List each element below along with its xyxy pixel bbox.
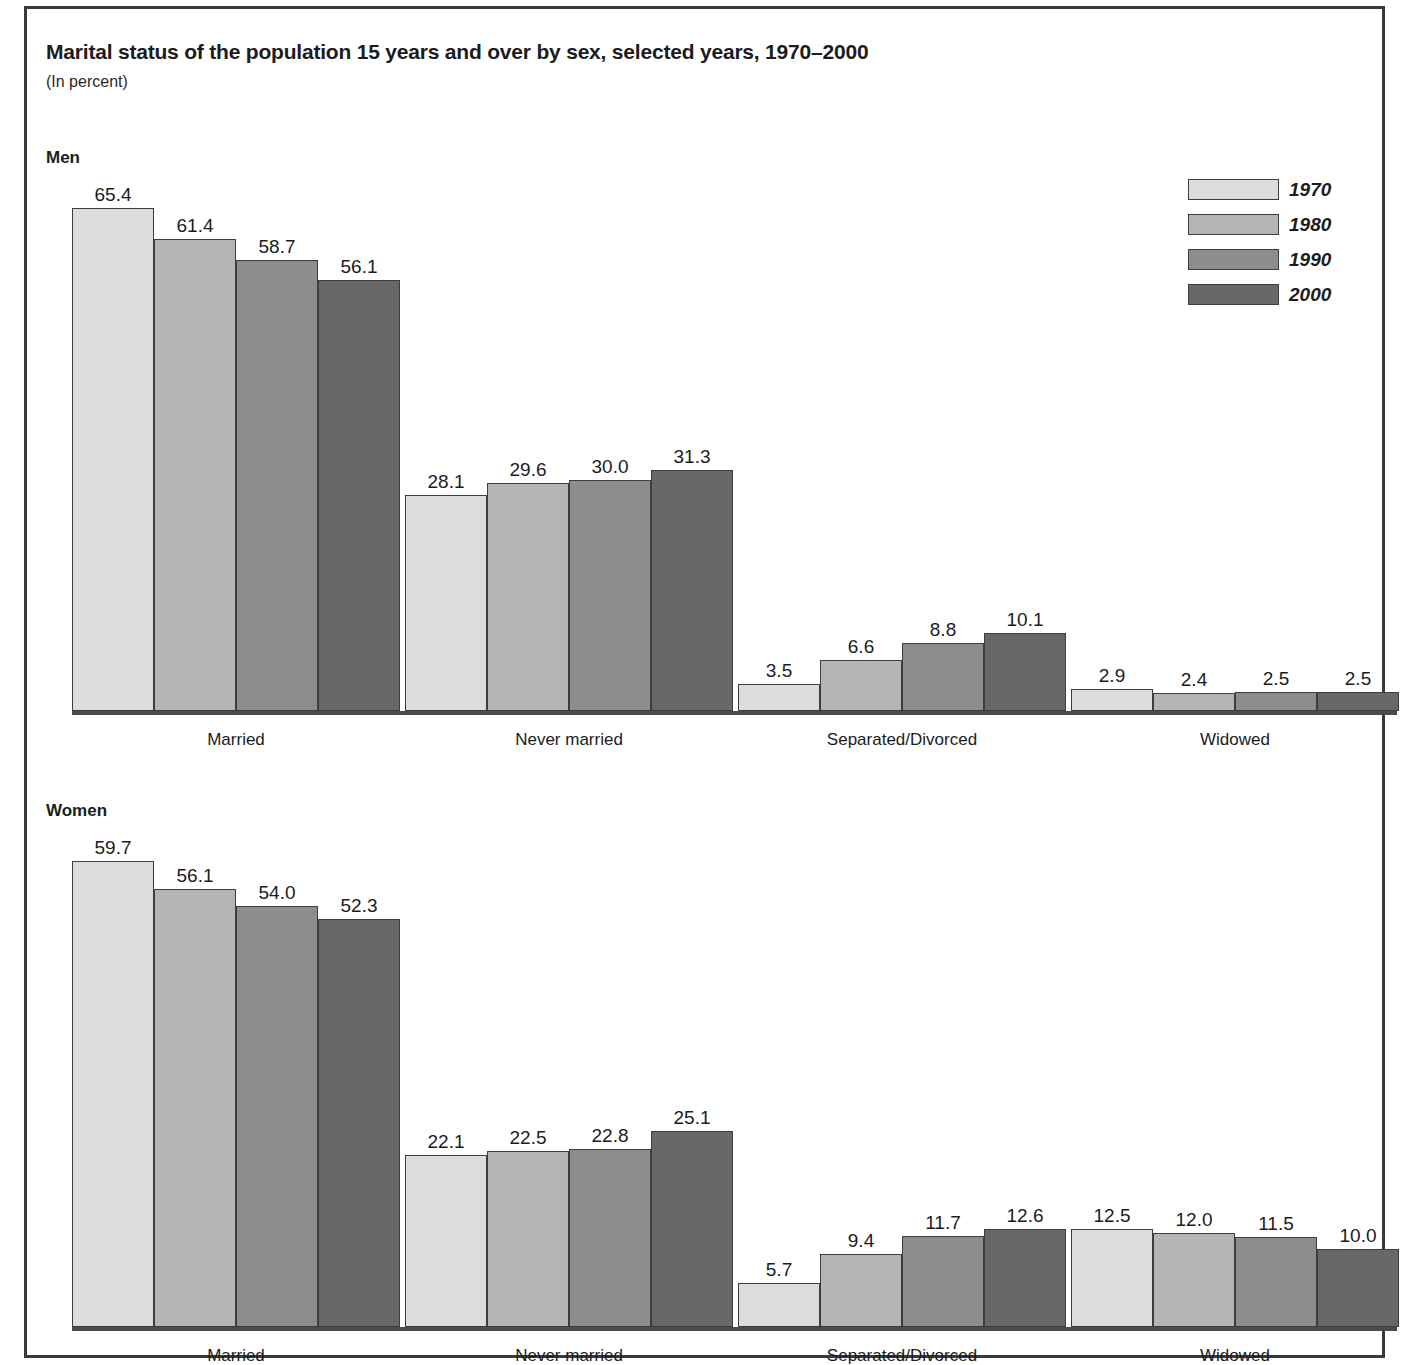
bar: 22.8	[569, 1149, 651, 1327]
bar: 22.5	[487, 1151, 569, 1327]
category-label: Widowed	[1200, 730, 1270, 750]
bar-value-label: 2.4	[1181, 669, 1207, 691]
bar: 9.4	[820, 1254, 902, 1327]
category-label: Married	[207, 1346, 265, 1365]
bar: 28.1	[405, 495, 487, 711]
bar: 2.4	[1153, 693, 1235, 711]
chart-women: 59.756.154.052.3Married22.122.522.825.1N…	[72, 865, 1397, 1331]
bar-group-women-1: 22.122.522.825.1Never married	[405, 861, 733, 1327]
bar: 65.4	[72, 208, 154, 711]
category-label: Never married	[515, 730, 623, 750]
category-label: Widowed	[1200, 1346, 1270, 1365]
bar: 56.1	[154, 889, 236, 1327]
bar-value-label: 2.9	[1099, 665, 1125, 687]
bar: 8.8	[902, 643, 984, 711]
page-subtitle: (In percent)	[46, 73, 128, 91]
bar-value-label: 10.0	[1340, 1225, 1377, 1247]
bar-value-label: 52.3	[341, 895, 378, 917]
bar-value-label: 6.6	[848, 636, 874, 658]
bar-group-men-1: 28.129.630.031.3Never married	[405, 208, 733, 711]
bar: 3.5	[738, 684, 820, 711]
bar-value-label: 9.4	[848, 1230, 874, 1252]
bar-value-label: 54.0	[259, 882, 296, 904]
bar: 12.6	[984, 1229, 1066, 1327]
bar-value-label: 30.0	[592, 456, 629, 478]
bar: 5.7	[738, 1283, 820, 1327]
page-title: Marital status of the population 15 year…	[46, 40, 868, 64]
bar-value-label: 2.5	[1263, 668, 1289, 690]
bar: 2.9	[1071, 689, 1153, 711]
bar-value-label: 25.1	[674, 1107, 711, 1129]
x-axis-men	[72, 711, 1397, 715]
bar: 12.0	[1153, 1233, 1235, 1327]
category-label: Never married	[515, 1346, 623, 1365]
bar-value-label: 58.7	[259, 236, 296, 258]
bar-value-label: 12.5	[1094, 1205, 1131, 1227]
legend-item-1970: 1970	[1188, 177, 1378, 204]
bar-value-label: 31.3	[674, 446, 711, 468]
bar-value-label: 29.6	[510, 459, 547, 481]
bar-value-label: 5.7	[766, 1259, 792, 1281]
bar-group-women-0: 59.756.154.052.3Married	[72, 861, 400, 1327]
bar-value-label: 56.1	[341, 256, 378, 278]
bar-group-men-2: 3.56.68.810.1Separated/Divorced	[738, 208, 1066, 711]
bar-group-women-3: 12.512.011.510.0Widowed	[1071, 861, 1399, 1327]
bar: 54.0	[236, 906, 318, 1328]
bar: 25.1	[651, 1131, 733, 1327]
bar: 2.5	[1235, 692, 1317, 711]
category-label: Separated/Divorced	[827, 1346, 977, 1365]
panel-label-women: Women	[46, 801, 107, 821]
bar-value-label: 65.4	[95, 184, 132, 206]
legend-label-1970: 1970	[1289, 177, 1331, 202]
bar: 31.3	[651, 470, 733, 711]
x-axis-women	[72, 1327, 1397, 1331]
bar: 10.0	[1317, 1249, 1399, 1327]
bar-value-label: 59.7	[95, 837, 132, 859]
bar: 11.5	[1235, 1237, 1317, 1327]
bar-value-label: 61.4	[177, 215, 214, 237]
category-label: Married	[207, 730, 265, 750]
panel-label-men: Men	[46, 148, 80, 168]
bar-value-label: 22.5	[510, 1127, 547, 1149]
bar-value-label: 11.7	[925, 1212, 961, 1234]
bar: 2.5	[1317, 692, 1399, 711]
bar: 12.5	[1071, 1229, 1153, 1327]
bar: 56.1	[318, 280, 400, 711]
bar-group-men-3: 2.92.42.52.5Widowed	[1071, 208, 1399, 711]
bar: 61.4	[154, 239, 236, 711]
chart-men: 65.461.458.756.1Married28.129.630.031.3N…	[72, 212, 1397, 715]
bar-value-label: 8.8	[930, 619, 956, 641]
legend-swatch-1970	[1188, 179, 1279, 200]
bar-value-label: 12.6	[1007, 1205, 1044, 1227]
bar: 11.7	[902, 1236, 984, 1327]
bar: 59.7	[72, 861, 154, 1327]
bar: 30.0	[569, 480, 651, 711]
bar-value-label: 2.5	[1345, 668, 1371, 690]
category-label: Separated/Divorced	[827, 730, 977, 750]
bar-value-label: 28.1	[428, 471, 465, 493]
bar: 52.3	[318, 919, 400, 1327]
bar-value-label: 10.1	[1007, 609, 1044, 631]
bar-group-women-2: 5.79.411.712.6Separated/Divorced	[738, 861, 1066, 1327]
chart-frame: Marital status of the population 15 year…	[24, 6, 1385, 1358]
bar: 10.1	[984, 633, 1066, 711]
bar: 22.1	[405, 1155, 487, 1328]
bar-value-label: 56.1	[177, 865, 214, 887]
bar-value-label: 11.5	[1258, 1213, 1294, 1235]
bar-value-label: 22.1	[428, 1131, 465, 1153]
bar-group-men-0: 65.461.458.756.1Married	[72, 208, 400, 711]
bar: 29.6	[487, 483, 569, 711]
bar-value-label: 12.0	[1176, 1209, 1213, 1231]
bar: 6.6	[820, 660, 902, 711]
bar: 58.7	[236, 260, 318, 711]
bar-value-label: 3.5	[766, 660, 792, 682]
bar-value-label: 22.8	[592, 1125, 629, 1147]
